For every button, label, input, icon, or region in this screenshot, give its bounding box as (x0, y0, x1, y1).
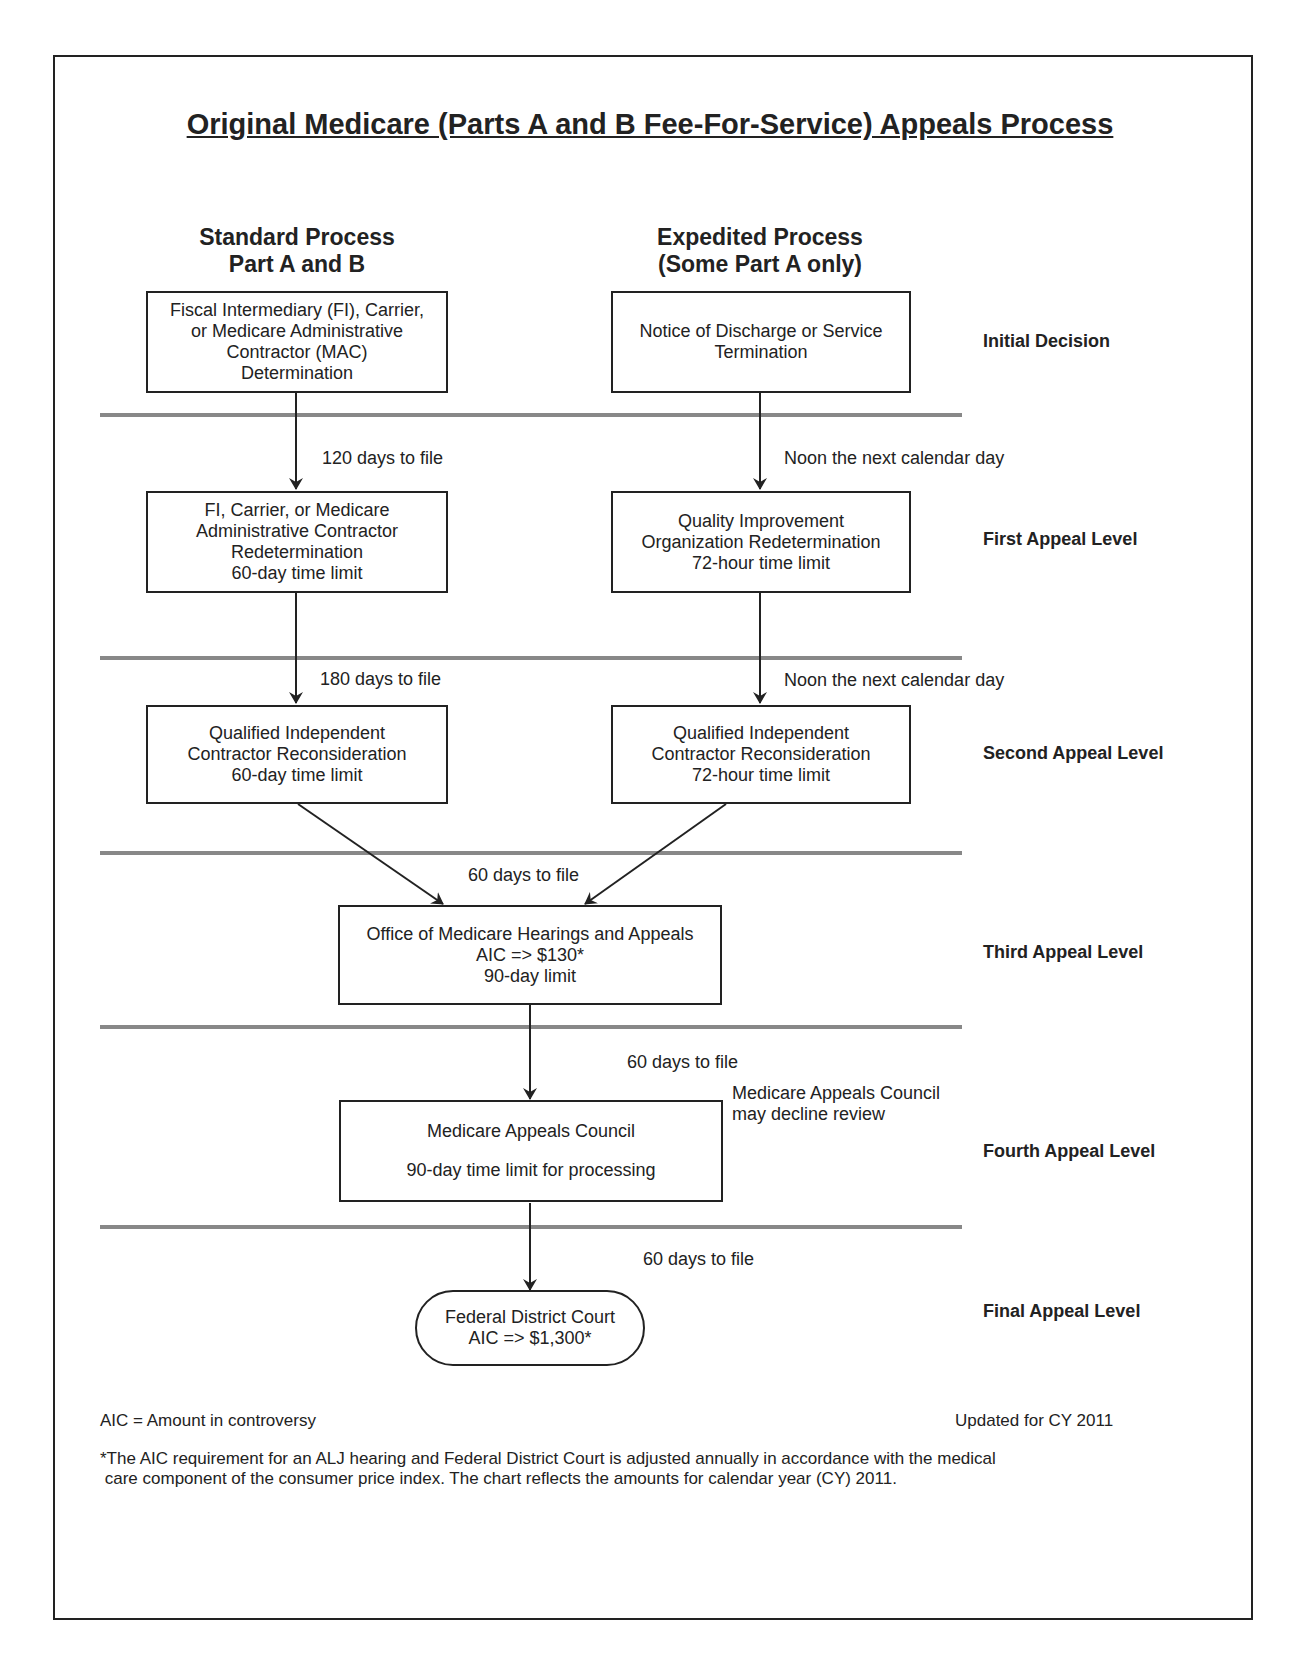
box-text: Determination (241, 363, 353, 384)
updated-note: Updated for CY 2011 (955, 1411, 1113, 1431)
box-text: Federal District Court (445, 1307, 615, 1328)
box-text: 90-day limit (484, 966, 576, 987)
box-federal-district-court: Federal District Court AIC => $1,300* (415, 1290, 645, 1366)
aic-definition: AIC = Amount in controversy (100, 1411, 316, 1431)
box-text: AIC => $1,300* (468, 1328, 591, 1349)
box-text: Quality Improvement (678, 511, 844, 532)
arrow-std-second-to-third (298, 804, 443, 904)
box-text: Notice of Discharge or Service (639, 321, 882, 342)
box-text: Qualified Independent (673, 723, 849, 744)
box-text: Termination (714, 342, 807, 363)
council-note-line1: Medicare Appeals Council (732, 1083, 940, 1104)
box-qio-redetermination: Quality Improvement Organization Redeter… (611, 491, 911, 593)
level-label-third: Third Appeal Level (983, 942, 1143, 963)
arrow-label-fourth: 60 days to file (627, 1052, 738, 1073)
council-decline-note: Medicare Appeals Council may decline rev… (732, 1083, 940, 1125)
box-medicare-appeals-council: Medicare Appeals Council 90-day time lim… (339, 1100, 723, 1202)
arrow-label-std-second: 180 days to file (320, 669, 441, 690)
box-text: 60-day time limit (231, 563, 362, 584)
box-qic-reconsideration-standard: Qualified Independent Contractor Reconsi… (146, 705, 448, 804)
arrow-label-final: 60 days to file (643, 1249, 754, 1270)
box-text: 60-day time limit (231, 765, 362, 786)
council-note-line2: may decline review (732, 1104, 940, 1125)
box-text: AIC => $130* (476, 945, 584, 966)
box-text: FI, Carrier, or Medicare (204, 500, 389, 521)
box-text: 72-hour time limit (692, 765, 830, 786)
box-text: or Medicare Administrative (191, 321, 403, 342)
box-text: Contractor (MAC) (226, 342, 367, 363)
level-label-second: Second Appeal Level (983, 743, 1163, 764)
box-text: Fiscal Intermediary (FI), Carrier, (170, 300, 424, 321)
box-text: 90-day time limit for processing (406, 1160, 655, 1181)
arrow-label-third: 60 days to file (468, 865, 579, 886)
level-label-initial: Initial Decision (983, 331, 1110, 352)
box-text: Qualified Independent (209, 723, 385, 744)
arrow-label-std-first: 120 days to file (322, 448, 443, 469)
level-label-first: First Appeal Level (983, 529, 1137, 550)
box-qic-reconsideration-expedited: Qualified Independent Contractor Reconsi… (611, 705, 911, 804)
footnote-line1: *The AIC requirement for an ALJ hearing … (100, 1449, 1200, 1469)
box-text: Redetermination (231, 542, 363, 563)
box-text: Contractor Reconsideration (651, 744, 870, 765)
level-label-final: Final Appeal Level (983, 1301, 1140, 1322)
box-fi-redetermination: FI, Carrier, or Medicare Administrative … (146, 491, 448, 593)
footnote: *The AIC requirement for an ALJ hearing … (100, 1449, 1200, 1489)
arrow-exp-second-to-third (585, 804, 726, 904)
box-text: 72-hour time limit (692, 553, 830, 574)
box-text: Office of Medicare Hearings and Appeals (367, 924, 694, 945)
box-omha: Office of Medicare Hearings and Appeals … (338, 905, 722, 1005)
footnote-line2: care component of the consumer price ind… (100, 1469, 1200, 1489)
arrow-label-exp-first: Noon the next calendar day (784, 448, 1004, 469)
box-fi-carrier-mac-determination: Fiscal Intermediary (FI), Carrier, or Me… (146, 291, 448, 393)
box-text: Administrative Contractor (196, 521, 398, 542)
box-text: Organization Redetermination (641, 532, 880, 553)
level-label-fourth: Fourth Appeal Level (983, 1141, 1155, 1162)
box-text: Contractor Reconsideration (187, 744, 406, 765)
arrow-label-exp-second: Noon the next calendar day (784, 670, 1004, 691)
box-notice-of-discharge: Notice of Discharge or Service Terminati… (611, 291, 911, 393)
box-text: Medicare Appeals Council (427, 1121, 635, 1142)
